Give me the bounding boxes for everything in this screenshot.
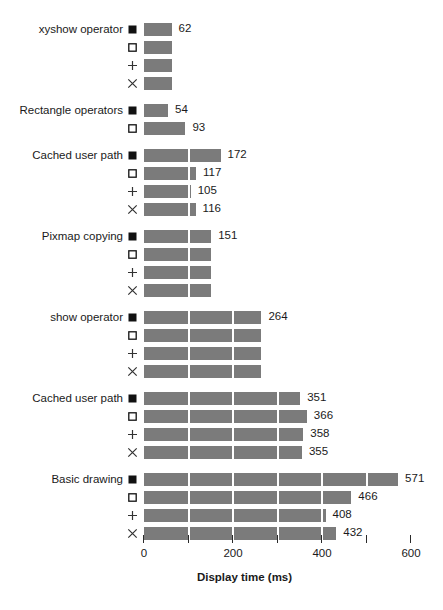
- bar-track: [144, 167, 196, 180]
- bar-row: Cached user path351: [0, 391, 443, 409]
- bar: [144, 59, 172, 72]
- cross-icon: [127, 78, 138, 89]
- gridline-break: [232, 365, 234, 378]
- bar: [144, 284, 211, 297]
- x-axis: 0200400600 Display time (ms): [0, 535, 443, 595]
- gridline-break: [277, 509, 279, 522]
- bar-value-label: 117: [203, 165, 221, 180]
- bar-track: [144, 491, 351, 504]
- filled-square-icon: [127, 231, 138, 242]
- bar-row: 466: [0, 490, 443, 508]
- gridline-break: [277, 491, 279, 504]
- gridline-break: [277, 446, 279, 459]
- bar: [144, 185, 191, 198]
- gridline-break: [188, 446, 190, 459]
- bar-track: [144, 149, 221, 162]
- plus-icon: [127, 60, 138, 71]
- gridline-break: [232, 428, 234, 441]
- bar: [144, 329, 261, 342]
- gridline-break: [188, 266, 190, 279]
- bar-row: 355: [0, 445, 443, 463]
- plus-icon: [127, 348, 138, 359]
- bar: [144, 122, 185, 135]
- bar-chart: xyshow operator62Rectangle operators5493…: [0, 0, 443, 610]
- bar-track: [144, 266, 211, 279]
- open-square-icon: [127, 249, 138, 260]
- bar-value-label: 93: [192, 120, 205, 135]
- gridline-break: [188, 149, 190, 162]
- axis-tick: [143, 535, 144, 543]
- gridline-break: [188, 311, 190, 324]
- axis-tick: [277, 535, 278, 543]
- bar-value-label: 358: [310, 426, 329, 441]
- bar-value-label: 571: [405, 471, 424, 486]
- open-square-icon: [127, 42, 138, 53]
- gridline-break: [277, 473, 279, 486]
- cross-icon: [127, 204, 138, 215]
- bar: [144, 77, 172, 90]
- gridline-break: [321, 491, 323, 504]
- open-square-icon: [127, 411, 138, 422]
- filled-square-icon: [127, 24, 138, 35]
- gridline-break: [188, 410, 190, 423]
- bar-track: [144, 248, 211, 261]
- group-label: xyshow operator: [0, 22, 123, 37]
- bar-track: [144, 185, 191, 198]
- bar: [144, 23, 172, 36]
- bar: [144, 365, 261, 378]
- gridline-break: [232, 347, 234, 360]
- gridline-break: [277, 428, 279, 441]
- bar-row: xyshow operator62: [0, 22, 443, 40]
- open-square-icon: [127, 168, 138, 179]
- bar-value-label: 355: [309, 444, 328, 459]
- gridline-break: [277, 392, 279, 405]
- open-square-icon: [127, 123, 138, 134]
- gridline-break: [188, 491, 190, 504]
- bar-value-label: 366: [314, 408, 333, 423]
- gridline-break: [188, 347, 190, 360]
- bar: [144, 266, 211, 279]
- bar-value-label: 62: [179, 21, 192, 36]
- group-label: Cached user path: [0, 391, 123, 406]
- open-square-icon: [127, 330, 138, 341]
- filled-square-icon: [127, 150, 138, 161]
- gridline-break: [232, 392, 234, 405]
- bar-row: Cached user path172: [0, 148, 443, 166]
- bar-row: [0, 328, 443, 346]
- gridline-break: [277, 410, 279, 423]
- cross-icon: [127, 285, 138, 296]
- gridline-break: [188, 185, 190, 198]
- bar-row: [0, 76, 443, 94]
- axis-tick: [321, 535, 322, 543]
- bar-track: [144, 410, 307, 423]
- bar-track: [144, 365, 261, 378]
- gridline-break: [232, 329, 234, 342]
- bar-row: [0, 40, 443, 58]
- group-label: Basic drawing: [0, 472, 123, 487]
- bar-track: [144, 104, 168, 117]
- bar-row: [0, 265, 443, 283]
- bar-row: 116: [0, 202, 443, 220]
- bar-track: [144, 329, 261, 342]
- gridline-break: [232, 473, 234, 486]
- bar: [144, 230, 211, 243]
- bar-row: [0, 346, 443, 364]
- bar-value-label: 172: [228, 147, 247, 162]
- gridline-break: [188, 203, 190, 216]
- bar: [144, 473, 398, 486]
- plus-icon: [127, 429, 138, 440]
- open-square-icon: [127, 492, 138, 503]
- bar-row: Rectangle operators54: [0, 103, 443, 121]
- axis-tick: [366, 535, 367, 543]
- bar-value-label: 408: [333, 507, 352, 522]
- gridline-break: [188, 509, 190, 522]
- plus-icon: [127, 186, 138, 197]
- gridline-break: [321, 473, 323, 486]
- cross-icon: [127, 447, 138, 458]
- bar-track: [144, 392, 300, 405]
- group-label: Rectangle operators: [0, 103, 123, 118]
- gridline-break: [188, 230, 190, 243]
- filled-square-icon: [127, 393, 138, 404]
- gridline-break: [188, 392, 190, 405]
- bar-track: [144, 347, 261, 360]
